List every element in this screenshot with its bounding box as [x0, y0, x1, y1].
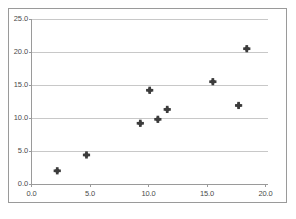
- y-tick-label-10.0: 10.0: [6, 113, 28, 122]
- marker-arm-vertical: [85, 151, 88, 158]
- y-tick-label-20.0: 20.0: [6, 47, 28, 56]
- scatter-chart: 0.05.010.015.020.025.0 0.05.010.015.020.…: [0, 0, 296, 219]
- x-tick-label-10.0: 10.0: [135, 189, 163, 198]
- data-point: [209, 78, 216, 85]
- marker-arm-vertical: [245, 45, 248, 52]
- y-tick-label-5.0: 5.0: [6, 146, 28, 155]
- gridlines: [32, 19, 268, 184]
- marker-arm-vertical: [148, 87, 151, 94]
- data-point: [154, 116, 161, 123]
- y-tick-label-15.0: 15.0: [6, 80, 28, 89]
- data-point: [235, 102, 242, 109]
- x-tick-label-15.0: 15.0: [193, 189, 221, 198]
- marker-arm-vertical: [212, 78, 215, 85]
- data-point: [164, 106, 171, 113]
- x-tick-label-5.0: 5.0: [76, 189, 104, 198]
- plot-canvas: [0, 0, 296, 219]
- x-tick-label-0.0: 0.0: [18, 189, 46, 198]
- data-point: [83, 151, 90, 158]
- data-point: [54, 167, 61, 174]
- marker-arm-vertical: [56, 167, 59, 174]
- data-point: [243, 45, 250, 52]
- x-axis-ticks: [29, 19, 266, 187]
- marker-arm-vertical: [157, 116, 160, 123]
- axis-lines: [32, 19, 268, 184]
- marker-arm-vertical: [139, 120, 142, 127]
- y-tick-label-0.0: 0.0: [6, 179, 28, 188]
- marker-arm-vertical: [166, 106, 169, 113]
- marker-arm-vertical: [237, 102, 240, 109]
- data-point: [137, 120, 144, 127]
- data-point: [146, 87, 153, 94]
- data-points: [54, 45, 251, 174]
- x-tick-label-20.0: 20.0: [252, 189, 280, 198]
- y-tick-label-25.0: 25.0: [6, 14, 28, 23]
